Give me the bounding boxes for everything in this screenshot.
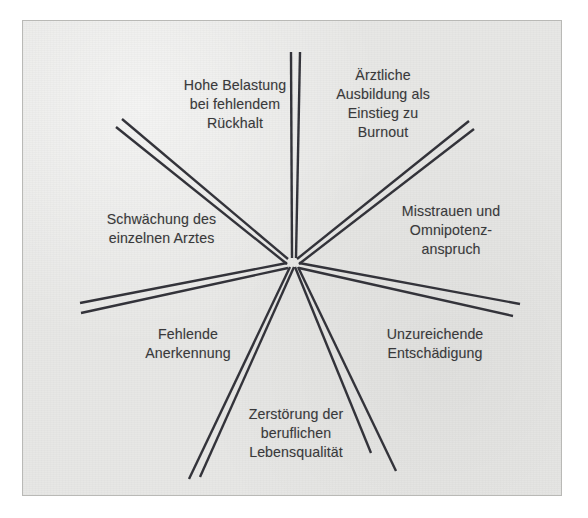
- diagram-label-hohe-belastung: Hohe Belastung bei fehlendem Rückhalt: [160, 76, 310, 133]
- diagram-label-schwaechung: Schwächung des einzelnen Arztes: [84, 210, 239, 248]
- diagram-label-aerztliche-ausbildung: Ärztliche Ausbildung als Einstieg zu Bur…: [318, 66, 448, 142]
- diagram-label-fehlende-anerkennung: Fehlende Anerkennung: [118, 325, 258, 363]
- burnout-star-diagram: Hohe Belastung bei fehlendem RückhaltÄrz…: [0, 0, 588, 518]
- diagram-label-zerstoerung: Zerstörung der beruflichen Lebensqualitä…: [222, 405, 370, 462]
- diagram-label-unzureichende-entschaedigung: Unzureichende Entschädigung: [360, 325, 510, 363]
- diagram-label-misstrauen: Misstrauen und Omnipotenz- anspruch: [376, 202, 526, 259]
